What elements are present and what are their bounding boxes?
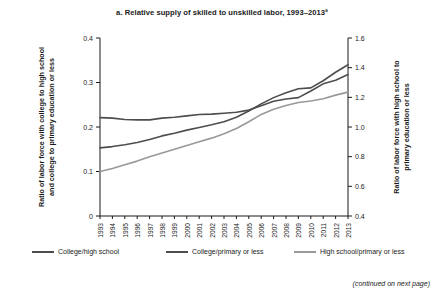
right-tick-label: 1.2: [355, 94, 365, 101]
x-tick-label: 1993: [97, 223, 104, 238]
x-tick-label: 2000: [184, 223, 191, 238]
left-axis-title-line2: and college to primary education or less: [47, 58, 56, 196]
legend-swatch-college-primary-or-less: [166, 251, 188, 253]
x-tick-label: 2006: [258, 223, 265, 238]
x-tick-label: 1996: [134, 223, 141, 238]
x-tick-label: 2010: [308, 223, 315, 238]
x-tick-label: 2004: [233, 223, 240, 238]
left-tick-label: 0.1: [83, 168, 93, 175]
left-axis-ticks: 00.10.20.30.4: [83, 35, 100, 220]
legend-item-college-primary-or-less: College/primary or less: [166, 248, 264, 255]
x-tick-label: 2008: [283, 223, 290, 238]
x-tick-label: 1994: [109, 223, 116, 238]
legend-item-college-high-school: College/high school: [32, 248, 119, 255]
right-axis-title-line2: primary education or less: [402, 83, 411, 170]
x-tick-label: 2003: [221, 223, 228, 238]
left-axis-title-line1: Ratio of labor force with college to hig…: [37, 47, 46, 207]
right-tick-label: 0.8: [355, 153, 365, 160]
right-tick-label: 1.0: [355, 124, 365, 131]
series-line-1: [100, 65, 348, 148]
legend-label-college-primary-or-less: College/primary or less: [192, 248, 264, 255]
legend-item-high-school-primary-or-less: High school/primary or less: [294, 248, 404, 255]
x-tick-label: 1995: [122, 223, 129, 238]
x-tick-label: 2011: [320, 223, 327, 238]
chart-container: a. Relative supply of skilled to unskill…: [0, 0, 444, 293]
right-tick-label: 1.6: [355, 35, 365, 42]
right-tick-label: 0.4: [355, 213, 365, 220]
x-tick-label: 2007: [271, 223, 278, 238]
right-tick-label: 0.6: [355, 183, 365, 190]
x-tick-label: 2005: [246, 223, 253, 238]
x-tick-label: 2001: [196, 223, 203, 238]
legend-label-college-high-school: College/high school: [58, 248, 119, 255]
series-lines: [100, 65, 348, 172]
right-axis-title-line1: Ratio of labor force with high school to: [392, 60, 401, 194]
x-tick-label: 2013: [345, 223, 352, 238]
legend-label-high-school-primary-or-less: High school/primary or less: [320, 248, 404, 255]
x-tick-label: 2002: [209, 223, 216, 238]
left-tick-label: 0.3: [83, 79, 93, 86]
legend-swatch-high-school-primary-or-less: [294, 251, 316, 253]
series-line-0: [100, 74, 348, 119]
legend-swatch-college-high-school: [32, 251, 54, 253]
left-tick-label: 0.2: [83, 124, 93, 131]
x-tick-label: 1997: [147, 223, 154, 238]
x-tick-label: 2009: [295, 223, 302, 238]
left-tick-label: 0.4: [83, 35, 93, 42]
series-line-2: [100, 92, 348, 171]
x-tick-label: 1998: [159, 223, 166, 238]
x-axis-ticks: 1993199419951996199719981999200020012002…: [97, 216, 352, 238]
right-axis-ticks: 0.40.60.81.01.21.41.6: [348, 35, 365, 220]
chart-legend: College/high school College/primary or l…: [26, 248, 422, 264]
continued-note: (continued on next page): [353, 280, 430, 287]
right-tick-label: 1.4: [355, 64, 365, 71]
x-tick-label: 1999: [171, 223, 178, 238]
left-tick-label: 0: [89, 213, 93, 220]
x-tick-label: 2012: [333, 223, 340, 238]
